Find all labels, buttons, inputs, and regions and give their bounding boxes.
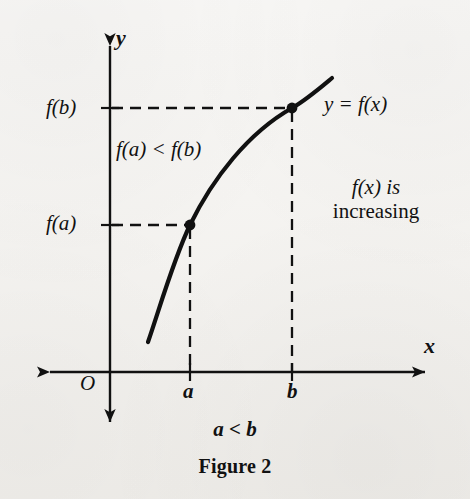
annotation-increasing: f(x) is increasing bbox=[316, 176, 436, 223]
x-axis-label: x bbox=[424, 334, 435, 359]
annotation-inequality-values: f(a) < f(b) bbox=[116, 138, 201, 162]
y-tick-label-f-of-a: f(a) bbox=[46, 212, 76, 236]
x-tick-label-b: b bbox=[287, 380, 298, 404]
y-tick-label-f-of-b: f(b) bbox=[46, 96, 76, 120]
figure-2-increasing-function: f(b) f(a) f(a) < f(b) y = f(x) f(x) is i… bbox=[0, 0, 470, 499]
origin-label: O bbox=[80, 372, 95, 396]
y-axis-label: y bbox=[116, 26, 126, 51]
annotation-inequality-domain: a < b bbox=[0, 418, 470, 442]
annotation-increasing-line2: increasing bbox=[316, 200, 436, 224]
annotation-curve-name: y = f(x) bbox=[324, 93, 387, 117]
point-a-marker bbox=[185, 220, 196, 231]
x-tick-label-a: a bbox=[183, 380, 194, 404]
function-curve bbox=[148, 78, 332, 342]
figure-caption: Figure 2 bbox=[0, 455, 470, 478]
annotation-increasing-line1: f(x) is bbox=[352, 175, 400, 199]
point-b-marker bbox=[287, 103, 298, 114]
